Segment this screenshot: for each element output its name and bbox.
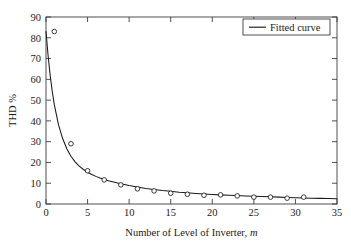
x-tick-label: 10 [124,207,135,218]
y-tick-label: 50 [31,95,42,106]
legend-label: Fitted curve [270,22,321,33]
y-axis-title: THD % [7,94,18,127]
data-point-marker [119,183,124,188]
data-point-marker [301,195,306,200]
x-tick-label: 0 [43,207,48,218]
data-point-marker [218,193,223,198]
x-axis-title-variable: m [250,227,258,238]
data-point-marker [285,196,290,201]
data-point-marker [235,194,240,199]
y-axis-ticks [46,17,337,204]
y-tick-label: 60 [31,74,42,85]
data-point-marker [185,192,190,197]
x-axis-title-text: Number of Level of Inverter, [125,227,247,238]
x-tick-label: 20 [207,207,218,218]
y-tick-label: 10 [31,178,42,189]
y-tick-label: 90 [31,12,42,23]
data-point-marker [268,195,273,200]
data-point-markers [52,29,306,200]
chart-figure: 0 5 10 15 20 25 30 35 0 10 20 30 40 50 6… [0,0,351,252]
x-axis-ticks [46,17,337,204]
plot-frame [46,17,337,204]
x-tick-label: 30 [290,207,301,218]
data-point-marker [252,195,257,200]
data-point-marker [69,141,74,146]
data-point-marker [168,191,173,196]
y-tick-label: 0 [36,199,41,210]
data-point-marker [102,178,107,183]
data-point-marker [202,193,207,198]
y-tick-label: 70 [31,53,42,64]
data-point-marker [135,187,140,192]
y-tick-label: 30 [31,136,42,147]
y-tick-label: 20 [31,157,42,168]
data-point-marker [52,29,57,34]
x-tick-label: 25 [249,207,260,218]
fitted-curve-line [46,32,337,199]
x-tick-label: 5 [85,207,90,218]
data-point-marker [85,168,90,173]
data-point-marker [152,189,157,194]
chart-canvas: 0 5 10 15 20 25 30 35 0 10 20 30 40 50 6… [0,0,351,252]
x-tick-labels: 0 5 10 15 20 25 30 35 [43,207,342,218]
y-tick-label: 80 [31,33,42,44]
x-tick-label: 35 [332,207,343,218]
y-tick-labels: 0 10 20 30 40 50 60 70 80 90 [31,12,42,210]
x-tick-label: 15 [165,207,176,218]
x-axis-title: Number of Level of Inverter,m [125,227,258,238]
legend[interactable]: Fitted curve [243,19,330,35]
y-tick-label: 40 [31,116,42,127]
